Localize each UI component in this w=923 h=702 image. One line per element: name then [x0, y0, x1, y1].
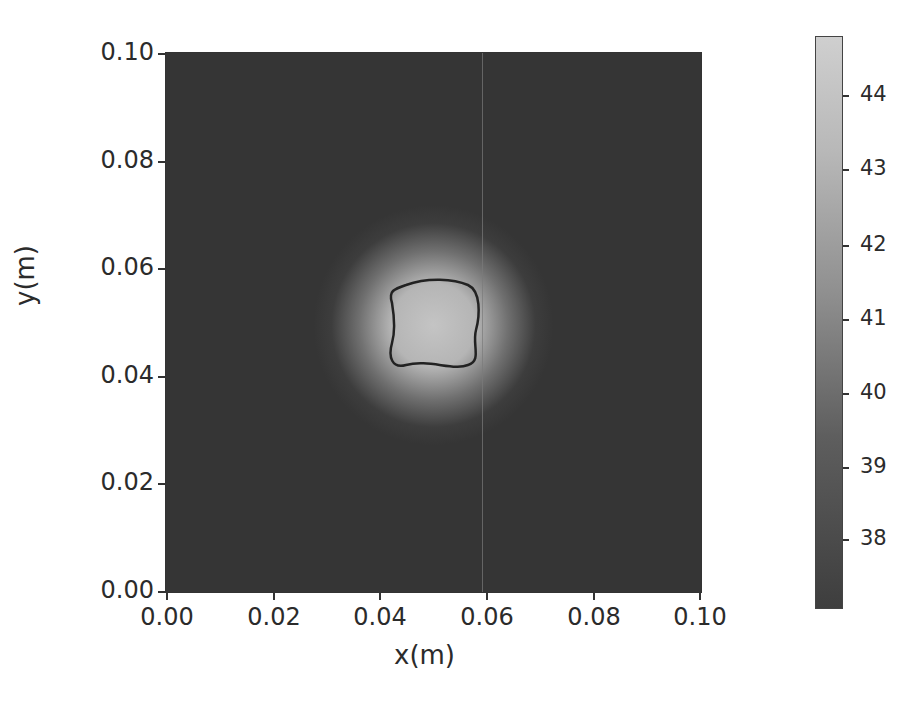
colorbar-tick [843, 245, 849, 247]
colorbar-label: 42 [860, 232, 887, 256]
y-tick [158, 376, 166, 378]
y-tick [158, 268, 166, 270]
y-tick-label: 0.08 [54, 146, 154, 174]
x-tick [593, 592, 595, 600]
x-tick-label: 0.10 [650, 603, 750, 631]
x-tick [166, 592, 168, 600]
y-tick [158, 161, 166, 163]
x-tick-label: 0.00 [117, 603, 217, 631]
colorbar-label: 44 [860, 82, 887, 106]
x-tick [273, 592, 275, 600]
x-tick [699, 592, 701, 600]
colorbar-tick [843, 95, 849, 97]
y-tick-label: 0.02 [54, 468, 154, 496]
y-tick-label: 0.00 [54, 576, 154, 604]
x-tick-label: 0.02 [224, 603, 324, 631]
hotspot-contour [166, 53, 701, 592]
colorbar-label: 40 [860, 380, 887, 404]
y-tick [158, 591, 166, 593]
x-axis-title: x(m) [394, 640, 455, 670]
colorbar-tick [843, 539, 849, 541]
y-tick-label: 0.06 [54, 253, 154, 281]
x-tick-label: 0.06 [437, 603, 537, 631]
colorbar-label: 38 [860, 526, 887, 550]
x-tick [379, 592, 381, 600]
colorbar-tick [843, 467, 849, 469]
y-axis-title: y(m) [10, 245, 40, 306]
x-tick-label: 0.08 [544, 603, 644, 631]
colorbar-tick [843, 169, 849, 171]
y-tick [158, 483, 166, 485]
colorbar-tick [843, 393, 849, 395]
heatmap-plot-area [166, 53, 701, 592]
colorbar-label: 41 [860, 306, 887, 330]
colorbar-tick [843, 319, 849, 321]
colorbar-gradient [815, 36, 843, 609]
x-tick-label: 0.04 [330, 603, 430, 631]
colorbar-label: 39 [860, 454, 887, 478]
colorbar-label: 43 [860, 156, 887, 180]
x-tick [486, 592, 488, 600]
y-tick-label: 0.10 [54, 38, 154, 66]
y-tick [158, 53, 166, 55]
y-tick-label: 0.04 [54, 361, 154, 389]
